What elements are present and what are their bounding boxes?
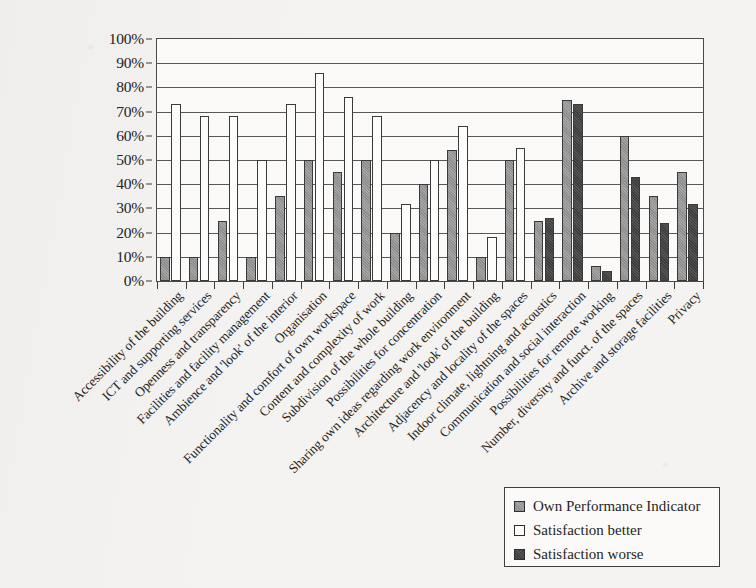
y-tick-mark bbox=[146, 208, 152, 209]
y-tick-label: 20% bbox=[116, 224, 144, 242]
y-tick-mark bbox=[146, 135, 152, 136]
y-tick-mark bbox=[146, 39, 152, 40]
bar-better bbox=[171, 104, 181, 281]
x-axis-category-labels: Accessibility of the buildingICT and sup… bbox=[0, 288, 756, 493]
y-tick-label: 30% bbox=[116, 199, 144, 217]
legend-item-worse: Satisfaction worse bbox=[514, 542, 711, 566]
y-tick-label: 70% bbox=[116, 103, 144, 121]
y-tick-label: 90% bbox=[116, 54, 144, 72]
y-tick-mark bbox=[146, 232, 152, 233]
legend-item-better: Satisfaction better bbox=[514, 518, 711, 542]
y-tick-mark bbox=[146, 281, 152, 282]
legend-swatch-satisfaction-better bbox=[514, 525, 525, 536]
bar-group bbox=[186, 39, 215, 281]
y-tick-label: 40% bbox=[116, 175, 144, 193]
legend-item-own: Own Performance Indicator bbox=[514, 494, 711, 518]
y-tick-mark bbox=[146, 256, 152, 257]
y-tick-label: 60% bbox=[116, 127, 144, 145]
legend-label-own-performance-indicator: Own Performance Indicator bbox=[533, 498, 700, 515]
legend-label-satisfaction-worse: Satisfaction worse bbox=[533, 546, 643, 563]
y-tick-label: 80% bbox=[116, 78, 144, 96]
y-tick-mark bbox=[146, 111, 152, 112]
y-tick-label: 100% bbox=[109, 30, 144, 48]
y-tick-label: 10% bbox=[116, 248, 144, 266]
y-tick-mark bbox=[146, 184, 152, 185]
y-tick-mark bbox=[146, 63, 152, 64]
chart-legend: Own Performance Indicator Satisfaction b… bbox=[504, 487, 720, 567]
bar-chart-figure: 0%10%20%30%40%50%60%70%80%90%100% Access… bbox=[0, 0, 756, 588]
y-axis: 0%10%20%30%40%50%60%70%80%90%100% bbox=[96, 38, 152, 282]
legend-swatch-satisfaction-worse bbox=[514, 549, 525, 560]
y-tick-mark bbox=[146, 87, 152, 88]
y-tick-mark bbox=[146, 160, 152, 161]
bar-group bbox=[157, 39, 186, 281]
legend-label-satisfaction-better: Satisfaction better bbox=[533, 522, 642, 539]
legend-swatch-own-performance-indicator bbox=[514, 501, 525, 512]
bar-own bbox=[160, 257, 170, 281]
y-tick-label: 50% bbox=[116, 151, 144, 169]
